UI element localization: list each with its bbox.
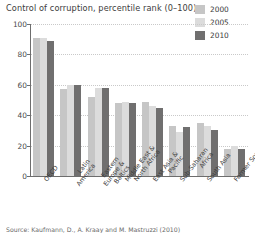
x-label-cell: Sub-SaharanAfrica bbox=[166, 177, 193, 227]
legend-item[interactable]: 2000 bbox=[195, 4, 251, 15]
chart-figure: Control of corruption, percentile rank (… bbox=[0, 0, 255, 233]
legend-label-2000: 2000 bbox=[210, 5, 229, 14]
y-axis-line bbox=[30, 24, 31, 177]
x-label-cell: Middle East &North Africa bbox=[112, 177, 139, 227]
x-label-cell: South Asia bbox=[194, 177, 221, 227]
x-label-cell: East Asia &Pacific bbox=[139, 177, 166, 227]
y-tick-label: 0 bbox=[1, 172, 27, 181]
x-label-cell: OECD bbox=[30, 177, 57, 227]
bar-group bbox=[30, 24, 57, 176]
x-label-cell: Former SovietUnion bbox=[221, 177, 248, 227]
bar[interactable] bbox=[95, 88, 102, 176]
bar-groups bbox=[30, 24, 248, 176]
bar[interactable] bbox=[40, 38, 47, 176]
bar-group bbox=[112, 24, 139, 176]
y-axis-ticks: 020406080100 bbox=[0, 24, 27, 176]
y-tick-label: 80 bbox=[1, 50, 27, 59]
plot-area bbox=[30, 24, 248, 176]
y-tick-label: 100 bbox=[1, 20, 27, 29]
bar[interactable] bbox=[60, 89, 67, 176]
y-tick-label: 40 bbox=[1, 111, 27, 120]
bar-group bbox=[85, 24, 112, 176]
legend-swatch-2000 bbox=[195, 5, 205, 14]
bar-group bbox=[57, 24, 84, 176]
source-note: Source: Kaufmann, D., A. Kraay and M. Ma… bbox=[6, 226, 180, 233]
x-axis-labels: OECDLatinAmericaEasternEurope &BalticsMi… bbox=[30, 177, 248, 227]
bar[interactable] bbox=[67, 85, 74, 176]
x-label-cell: EasternEurope &Baltics bbox=[85, 177, 112, 227]
x-label-cell: LatinAmerica bbox=[57, 177, 84, 227]
y-tick-label: 60 bbox=[1, 80, 27, 89]
bar[interactable] bbox=[33, 38, 40, 176]
chart-title: Control of corruption, percentile rank (… bbox=[6, 3, 196, 13]
bar[interactable] bbox=[47, 41, 54, 176]
y-tick-label: 20 bbox=[1, 141, 27, 150]
